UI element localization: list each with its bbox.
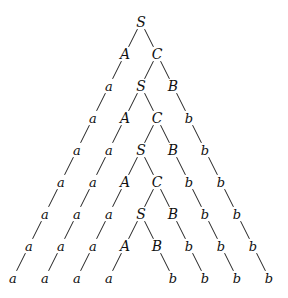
tree-edge <box>145 61 154 79</box>
tree-edge <box>193 253 202 271</box>
terminal-node: a <box>89 239 97 254</box>
nonterminal-node: A <box>118 110 130 126</box>
terminal-node: a <box>9 271 17 286</box>
terminal-node: a <box>57 239 65 254</box>
terminal-node: a <box>25 239 33 254</box>
tree-edge <box>145 93 154 111</box>
tree-edge <box>113 61 122 79</box>
terminal-node: a <box>105 143 113 158</box>
tree-edge <box>129 221 138 239</box>
tree-edge <box>161 253 170 271</box>
tree-edge <box>33 221 42 239</box>
tree-edge <box>49 189 58 207</box>
terminal-node: a <box>41 271 49 286</box>
tree-edge <box>225 189 234 207</box>
tree-edge <box>161 189 170 207</box>
terminal-node: b <box>233 271 241 286</box>
tree-edge <box>97 93 106 111</box>
tree-edge <box>81 125 90 143</box>
tree-edge <box>177 157 186 175</box>
nonterminal-node: B <box>151 238 162 254</box>
tree-nodes: SACaSBaACbaaSBbaaACbbaaaSBbbaaaABbbbaaaa… <box>9 14 273 286</box>
tree-edge <box>161 125 170 143</box>
tree-edge <box>193 189 202 207</box>
terminal-node: b <box>201 143 209 158</box>
tree-edge <box>81 253 90 271</box>
tree-edge <box>49 253 58 271</box>
nonterminal-node: B <box>167 78 178 94</box>
terminal-node: b <box>265 271 273 286</box>
tree-edge <box>17 253 26 271</box>
terminal-node: a <box>73 143 81 158</box>
tree-edge <box>145 189 154 207</box>
tree-edge <box>225 253 234 271</box>
nonterminal-node: A <box>118 238 130 254</box>
tree-edge <box>209 157 218 175</box>
nonterminal-node: B <box>167 142 178 158</box>
terminal-node: b <box>233 207 241 222</box>
tree-edge <box>113 253 122 271</box>
tree-edge <box>257 253 266 271</box>
nonterminal-node: S <box>136 206 146 222</box>
nonterminal-node: A <box>118 46 130 62</box>
terminal-node: b <box>201 207 209 222</box>
terminal-node: b <box>169 271 177 286</box>
terminal-node: a <box>41 207 49 222</box>
tree-edge <box>241 221 250 239</box>
terminal-node: a <box>105 271 113 286</box>
tree-edge <box>177 93 186 111</box>
terminal-node: a <box>105 207 113 222</box>
terminal-node: b <box>185 111 193 126</box>
tree-edge <box>113 189 122 207</box>
terminal-node: b <box>217 175 225 190</box>
terminal-node: a <box>57 175 65 190</box>
terminal-node: b <box>217 239 225 254</box>
tree-edge <box>65 221 74 239</box>
terminal-node: b <box>185 175 193 190</box>
terminal-node: a <box>89 111 97 126</box>
terminal-node: b <box>201 271 209 286</box>
terminal-node: b <box>249 239 257 254</box>
tree-edge <box>129 29 138 47</box>
tree-edge <box>161 61 170 79</box>
nonterminal-node: S <box>136 78 146 94</box>
tree-edge <box>209 221 218 239</box>
terminal-node: a <box>73 207 81 222</box>
nonterminal-node: S <box>136 14 146 30</box>
terminal-node: b <box>185 239 193 254</box>
tree-edge <box>81 189 90 207</box>
tree-edge <box>113 125 122 143</box>
tree-edge <box>65 157 74 175</box>
nonterminal-node: C <box>152 110 163 126</box>
tree-edge <box>193 125 202 143</box>
tree-edge <box>97 157 106 175</box>
tree-edge <box>97 221 106 239</box>
tree-edge <box>145 29 154 47</box>
tree-edge <box>129 93 138 111</box>
tree-edge <box>177 221 186 239</box>
nonterminal-node: C <box>152 174 163 190</box>
terminal-node: a <box>89 175 97 190</box>
nonterminal-node: B <box>167 206 178 222</box>
nonterminal-node: S <box>136 142 146 158</box>
nonterminal-node: C <box>152 46 163 62</box>
tree-edge <box>145 157 154 175</box>
tree-edge <box>145 125 154 143</box>
terminal-node: a <box>73 271 81 286</box>
parse-tree: SACaSBaACbaaSBbaaACbbaaaSBbbaaaABbbbaaaa… <box>0 0 288 298</box>
nonterminal-node: A <box>118 174 130 190</box>
terminal-node: a <box>105 79 113 94</box>
tree-edge <box>145 221 154 239</box>
tree-edge <box>129 157 138 175</box>
